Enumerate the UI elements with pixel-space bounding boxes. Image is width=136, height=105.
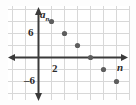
- data-point: [75, 43, 80, 48]
- data-point: [62, 31, 67, 36]
- y-tick-label-6: 6: [28, 27, 34, 38]
- data-point: [101, 67, 106, 72]
- data-point: [114, 79, 119, 84]
- coordinate-plane-graph: [0, 0, 136, 105]
- data-point: [88, 55, 93, 60]
- data-point: [49, 19, 54, 24]
- scatter-plot-figure: an n 6 –6 2: [0, 0, 136, 105]
- x-axis-label: n: [117, 62, 123, 73]
- x-tick-label-2: 2: [52, 63, 58, 74]
- y-axis-label: an: [40, 9, 49, 23]
- y-tick-label-minus-6: –6: [24, 75, 35, 86]
